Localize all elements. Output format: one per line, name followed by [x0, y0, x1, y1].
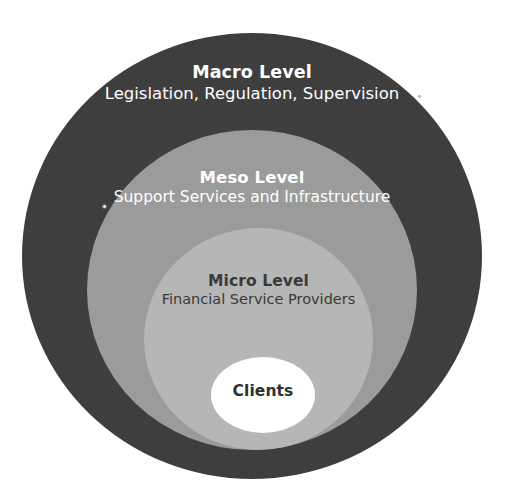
micro-level-title: Micro Level — [136, 272, 381, 290]
clients-title: Clients — [211, 382, 315, 400]
scan-speck-icon — [102, 204, 107, 209]
meso-level-label: Meso Level Support Services and Infrastr… — [77, 168, 427, 207]
micro-level-label: Micro Level Financial Service Providers — [136, 272, 381, 308]
macro-level-label: Macro Level Legislation, Regulation, Sup… — [62, 62, 442, 103]
meso-level-title: Meso Level — [77, 168, 427, 187]
macro-level-subtitle: Legislation, Regulation, Supervision — [62, 84, 442, 103]
meso-level-subtitle: Support Services and Infrastructure — [77, 188, 427, 206]
concentric-levels-diagram: Macro Level Legislation, Regulation, Sup… — [0, 0, 511, 497]
micro-level-subtitle: Financial Service Providers — [136, 291, 381, 308]
macro-level-title: Macro Level — [62, 62, 442, 83]
scan-speck-secondary-icon — [418, 95, 421, 98]
clients-label: Clients — [211, 382, 315, 400]
